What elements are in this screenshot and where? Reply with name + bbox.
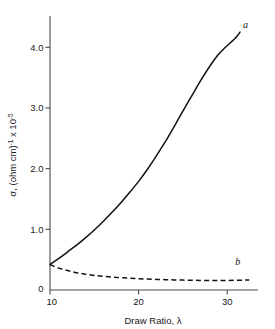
svg-text:σ, (ohm cm)-1 x 10-5: σ, (ohm cm)-1 x 10-5 xyxy=(7,113,18,197)
series-b-label: b xyxy=(235,256,240,267)
y-tick-label: 2.0 xyxy=(30,163,43,174)
y-axis-title-main: σ, (ohm cm) xyxy=(7,145,18,196)
y-tick-label: 1.0 xyxy=(30,224,43,235)
conductivity-vs-draw-ratio-chart: 102030 01.02.03.04.0 a b Draw Ratio, λ σ… xyxy=(0,0,275,329)
y-axis-title-exponent-2: -5 xyxy=(7,113,14,119)
x-tick-label: 20 xyxy=(133,296,144,307)
x-axis-title: Draw Ratio, λ xyxy=(124,315,181,326)
x-tick-label: 30 xyxy=(222,296,233,307)
y-tick-label: 0 xyxy=(38,283,43,294)
y-axis-title: σ, (ohm cm)-1 x 10-5 xyxy=(7,113,18,197)
y-axis-title-mid: x 10 xyxy=(7,119,18,140)
y-tick-label: 4.0 xyxy=(30,42,43,53)
x-tick-label: 10 xyxy=(47,296,58,307)
y-tick-label: 3.0 xyxy=(30,102,43,113)
series-a-label: a xyxy=(243,19,248,30)
